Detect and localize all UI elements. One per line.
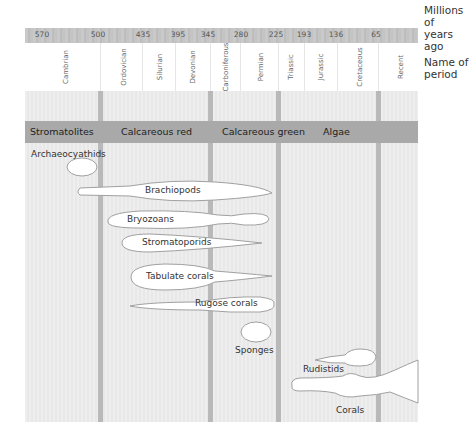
taxon-label-corals: Corals	[336, 405, 364, 415]
taxon-label-rudistids: Rudistids	[303, 364, 344, 374]
taxon-label-rugose-corals: Rugose corals	[195, 298, 258, 308]
archaeocyathids-shape	[67, 158, 97, 176]
taxon-label-archaeocyathids: Archaeocyathids	[31, 149, 106, 159]
taxon-label-tabulate-corals: Tabulate corals	[146, 271, 214, 281]
taxon-label-bryozoans: Bryozoans	[127, 214, 174, 224]
taxon-label-stromatoporids: Stromatoporids	[142, 237, 211, 247]
range-shapes	[0, 0, 471, 441]
taxon-label-sponges: Sponges	[235, 345, 274, 355]
taxon-label-brachiopods: Brachiopods	[145, 185, 201, 195]
sponges-shape	[241, 322, 271, 342]
